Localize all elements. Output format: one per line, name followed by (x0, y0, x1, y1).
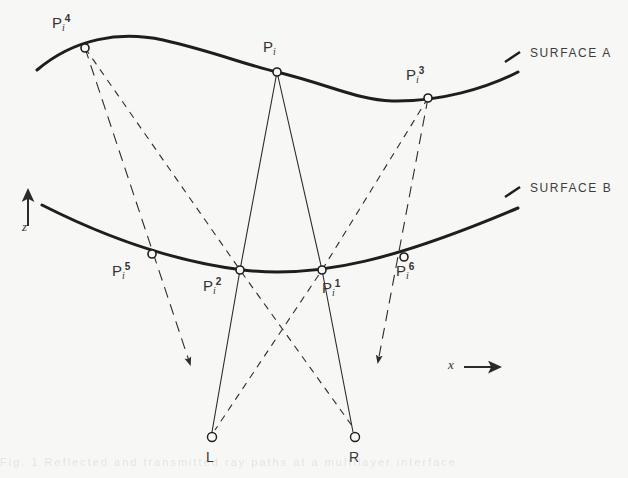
figure-canvas: Pi4 Pi Pi3 Pi5 Pi2 Pi1 Pi6 L R SURFACE A… (0, 0, 628, 478)
ray-Pi-to-Pi2-to-L (212, 72, 277, 432)
point-label-Pi4-sup: 4 (65, 13, 71, 24)
scan-bleed-text: Fig. 1 Reflected and transmitted ray pat… (0, 456, 628, 478)
point-label-Pi5-base: P (112, 262, 122, 279)
point-label-Pi4: Pi4 (52, 14, 70, 33)
point-marker-Pi6 (400, 253, 408, 261)
point-label-Pi3-base: P (406, 66, 416, 83)
point-marker-Pi4 (81, 44, 89, 52)
point-label-Pi1: Pi1 (322, 279, 340, 298)
point-label-Pi-base: P (263, 38, 273, 55)
point-marker-Pi3 (424, 94, 432, 102)
point-label-Pi-sub: i (273, 46, 276, 57)
point-marker-Pi2 (236, 266, 244, 274)
point-label-Pi1-base: P (322, 279, 332, 296)
point-marker-Pi1 (318, 266, 326, 274)
ray-Pi3-to-Pi6-arrow (378, 98, 428, 362)
ray-Pi-to-Pi1-to-R (277, 72, 353, 432)
point-label-Pi5: Pi5 (112, 262, 130, 281)
diagram-svg (0, 0, 628, 478)
point-label-Pi2-sup: 2 (216, 276, 222, 287)
surface-b-leader (505, 187, 520, 197)
point-label-Pi3: Pi3 (406, 66, 424, 85)
point-marker-Pi (273, 68, 281, 76)
point-label-Pi6-sup: 6 (409, 261, 415, 272)
surface-b-label: SURFACE B (530, 182, 612, 194)
point-label-Pi: Pi (263, 38, 276, 57)
surface-a-leader (505, 52, 520, 62)
surface-a-label: SURFACE A (530, 47, 612, 59)
point-marker-Pi5 (148, 250, 156, 258)
point-label-Pi6-base: P (396, 262, 406, 279)
z-axis-label: z (22, 220, 27, 233)
point-label-Pi5-sup: 5 (125, 261, 131, 272)
point-label-Pi2: Pi2 (203, 277, 221, 296)
point-label-Pi2-base: P (203, 277, 213, 294)
point-label-Pi4-base: P (52, 14, 62, 31)
point-marker-L (208, 433, 217, 442)
ray-Pi4-to-Pi5-arrow (85, 48, 190, 364)
point-marker-R (351, 433, 360, 442)
point-label-Pi3-sup: 3 (419, 65, 425, 76)
x-axis-label: x (448, 358, 454, 371)
point-label-Pi1-sup: 1 (335, 278, 341, 289)
point-label-Pi6: Pi6 (396, 262, 414, 281)
